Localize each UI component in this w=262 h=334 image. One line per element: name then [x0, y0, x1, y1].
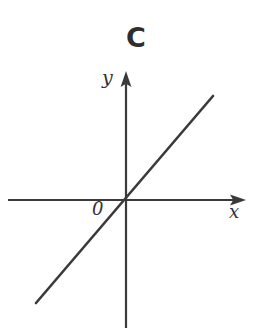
y-axis-label: y — [102, 68, 113, 87]
coordinate-plot — [0, 0, 262, 334]
x-axis-label: x — [229, 203, 239, 221]
graph-figure: C y x 0 — [0, 0, 262, 334]
origin-label: 0 — [92, 200, 103, 218]
